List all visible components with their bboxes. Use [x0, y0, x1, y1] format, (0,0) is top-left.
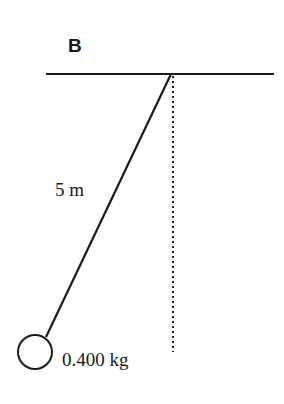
pendulum-bob — [18, 335, 52, 369]
diagram-title: B — [68, 35, 82, 56]
pendulum-diagram: B 5 m 0.400 kg — [0, 0, 284, 404]
mass-label: 0.400 kg — [62, 349, 129, 370]
pendulum-string — [46, 74, 171, 337]
diagram-svg: B 5 m 0.400 kg — [0, 0, 284, 404]
string-length-label: 5 m — [55, 179, 84, 200]
